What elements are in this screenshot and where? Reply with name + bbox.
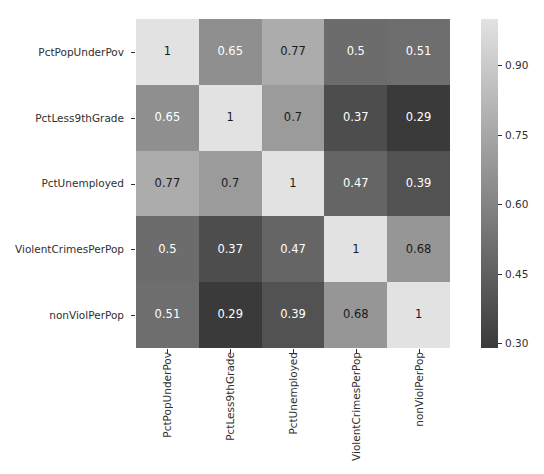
heatmap-cell-value: 0.39 [280, 309, 306, 321]
y-tick-label: PctUnemployed [0, 151, 130, 217]
x-tick-mark [167, 349, 168, 353]
heatmap-cell-value: 0.65 [217, 46, 243, 58]
heatmap-cell: 0.65 [136, 85, 199, 151]
colorbar-tick-mark [498, 204, 502, 205]
heatmap-cell-value: 0.29 [406, 112, 432, 124]
x-tick-label-wrap: ViolentCrimesPerPop [324, 352, 387, 472]
heatmap-cell: 0.37 [324, 85, 387, 151]
y-tick-mark [131, 184, 135, 185]
x-tick-label-wrap: PctUnemployed [262, 352, 325, 472]
heatmap-cell: 0.29 [387, 85, 450, 151]
x-tick-mark [419, 349, 420, 353]
heatmap-cell-value: 0.7 [221, 178, 239, 190]
heatmap-cell-value: 0.47 [280, 244, 306, 256]
x-tick-label: ViolentCrimesPerPop [350, 352, 362, 461]
heatmap-cell-value: 1 [164, 46, 171, 58]
heatmap-cell-value: 0.7 [284, 112, 302, 124]
heatmap-cell: 0.68 [324, 282, 387, 348]
heatmap-cell-value: 0.65 [155, 112, 181, 124]
x-tick-label-wrap: PctPopUnderPov [136, 352, 199, 472]
colorbar-gradient [481, 19, 498, 348]
colorbar-tick-mark [498, 135, 502, 136]
colorbar-tick-mark [498, 65, 502, 66]
heatmap-cell-value: 0.39 [406, 178, 432, 190]
heatmap-cell: 1 [387, 282, 450, 348]
heatmap-cell: 0.77 [262, 19, 325, 85]
heatmap-cell-value: 0.5 [347, 46, 365, 58]
heatmap-cell-value: 0.77 [280, 46, 306, 58]
heatmap-cell: 0.5 [136, 216, 199, 282]
heatmap-cell: 1 [199, 85, 262, 151]
colorbar-tick-mark [498, 343, 502, 344]
heatmap-cell-value: 0.5 [158, 244, 176, 256]
heatmap-cell: 0.47 [324, 151, 387, 217]
heatmap-cell-value: 0.68 [406, 244, 432, 256]
x-tick-label-wrap: nonViolPerPop [387, 352, 450, 472]
y-tick-mark [131, 52, 135, 53]
y-tick-label: PctPopUnderPov [0, 19, 130, 85]
x-tick-mark [293, 349, 294, 353]
x-axis-tick-labels: PctPopUnderPovPctLess9thGradePctUnemploy… [136, 352, 450, 472]
y-axis-tick-labels: PctPopUnderPovPctLess9thGradePctUnemploy… [0, 19, 130, 348]
x-tick-label: nonViolPerPop [413, 352, 425, 427]
y-tick-label: PctLess9thGrade [0, 85, 130, 151]
colorbar-tick-label: 0.75 [505, 129, 528, 141]
heatmap-cell: 0.39 [262, 282, 325, 348]
heatmap-cell: 0.68 [387, 216, 450, 282]
colorbar-tick-label: 0.30 [505, 337, 528, 349]
heatmap-cell-value: 0.51 [155, 309, 181, 321]
heatmap-cell-value: 0.37 [343, 112, 369, 124]
heatmap-plot-area: 10.650.770.50.510.6510.70.370.290.770.71… [136, 19, 450, 348]
heatmap-cell: 1 [136, 19, 199, 85]
colorbar-tick-label: 0.45 [505, 268, 528, 280]
heatmap-cell-value: 1 [415, 309, 422, 321]
heatmap-cell: 0.5 [324, 19, 387, 85]
colorbar-tick-label: 0.60 [505, 198, 528, 210]
heatmap-cell: 0.51 [136, 282, 199, 348]
heatmap-cell: 1 [324, 216, 387, 282]
heatmap-cell: 0.47 [262, 216, 325, 282]
heatmap-cell-value: 0.47 [343, 178, 369, 190]
x-tick-mark [230, 349, 231, 353]
y-tick-mark [131, 249, 135, 250]
heatmap-cell-value: 0.51 [406, 46, 432, 58]
heatmap-cell: 0.77 [136, 151, 199, 217]
heatmap-cell-value: 0.68 [343, 309, 369, 321]
heatmap-cell: 0.39 [387, 151, 450, 217]
heatmap-cell-value: 1 [289, 178, 296, 190]
heatmap-cell: 0.7 [199, 151, 262, 217]
heatmap-cell: 0.51 [387, 19, 450, 85]
y-tick-mark [131, 315, 135, 316]
x-tick-label: PctPopUnderPov [161, 352, 173, 438]
x-tick-label: PctLess9thGrade [224, 352, 236, 441]
heatmap-cell: 1 [262, 151, 325, 217]
x-tick-mark [356, 349, 357, 353]
colorbar: 0.900.750.600.450.30 [481, 19, 498, 348]
heatmap-cell-value: 0.29 [217, 309, 243, 321]
heatmap-cell: 0.29 [199, 282, 262, 348]
heatmap-grid: 10.650.770.50.510.6510.70.370.290.770.71… [136, 19, 450, 348]
heatmap-cell-value: 0.77 [155, 178, 181, 190]
heatmap-cell-value: 1 [352, 244, 359, 256]
x-tick-label-wrap: PctLess9thGrade [199, 352, 262, 472]
heatmap-cell-value: 1 [227, 112, 234, 124]
heatmap-cell: 0.37 [199, 216, 262, 282]
y-tick-label: nonViolPerPop [0, 282, 130, 348]
y-tick-mark [131, 118, 135, 119]
y-tick-label: ViolentCrimesPerPop [0, 216, 130, 282]
x-tick-label: PctUnemployed [287, 352, 299, 435]
heatmap-cell-value: 0.37 [217, 244, 243, 256]
colorbar-tick-mark [498, 274, 502, 275]
heatmap-cell: 0.65 [199, 19, 262, 85]
heatmap-cell: 0.7 [262, 85, 325, 151]
colorbar-tick-label: 0.90 [505, 59, 528, 71]
